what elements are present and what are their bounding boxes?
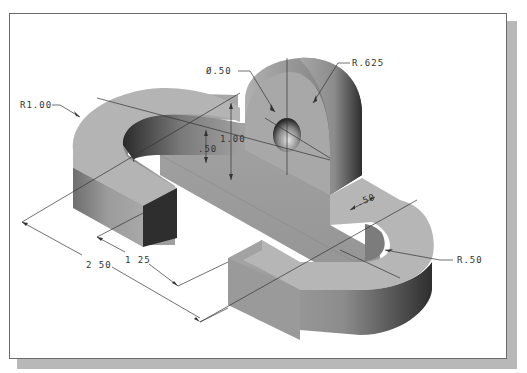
label-boss-radius: R.625: [352, 58, 384, 68]
label-hole-diameter: Ø.50: [206, 66, 232, 76]
label-boss-height: 1.00: [220, 134, 246, 144]
label-inner-radius-right: R.50: [457, 255, 483, 265]
label-outer-radius-left: R1.00: [20, 100, 52, 110]
isometric-drawing: Ø.50 R.625 R1.00 1.00 .50 .50 R.50 1 25 …: [0, 0, 527, 373]
label-base-thickness: .50: [198, 144, 217, 154]
label-overall-length: 2 50: [86, 260, 112, 270]
label-inner-length: 1 25: [125, 255, 151, 265]
